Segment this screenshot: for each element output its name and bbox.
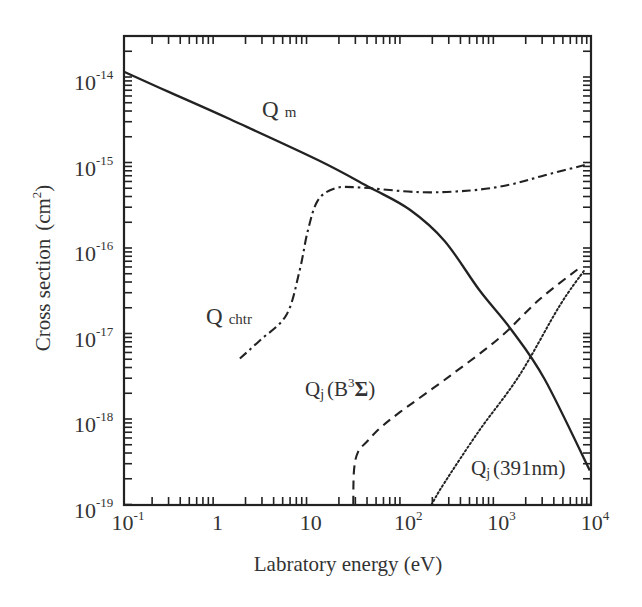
x-tick-label: 1	[212, 510, 223, 535]
label-qm: Qm	[262, 97, 297, 122]
axis-ticks	[124, 36, 591, 505]
y-axis-label: Cross section(cm2)	[29, 185, 55, 352]
y-tick-label: 10-19	[74, 495, 113, 523]
label-qchtr: Qchtr	[206, 304, 252, 329]
x-tick-label: 10	[300, 510, 322, 535]
cross-section-chart: 10-1110102103104 10-1410-1510-1610-1710-…	[0, 0, 642, 607]
curve-q-m	[124, 72, 590, 471]
x-axis-tick-labels: 10-1110102103104	[112, 508, 610, 535]
label-qj-391nm: Qj(391nm)	[471, 456, 565, 481]
x-tick-label: 103	[487, 508, 515, 535]
y-tick-label: 10-14	[74, 67, 114, 95]
plot-frame	[124, 36, 591, 505]
x-tick-label: 10-1	[112, 508, 145, 535]
y-tick-label: 10-18	[74, 409, 113, 437]
curve-q-chtr	[240, 164, 589, 359]
y-tick-label: 10-15	[74, 153, 113, 181]
data-curves	[124, 72, 590, 505]
y-tick-label: 10-17	[74, 324, 114, 352]
plot-border	[124, 36, 591, 505]
x-tick-label: 102	[394, 508, 423, 535]
x-tick-label: 104	[581, 508, 610, 535]
y-tick-label: 10-16	[74, 238, 114, 266]
x-axis-label: Labratory energy (eV)	[254, 552, 443, 576]
label-qj-b3sigma: Qj(B3Σ)	[305, 375, 375, 402]
y-axis-tick-labels: 10-1410-1510-1610-1710-1810-19	[74, 67, 114, 523]
